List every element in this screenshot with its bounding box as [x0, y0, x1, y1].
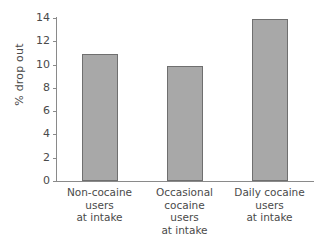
y-axis-title: % drop out	[13, 20, 26, 130]
y-axis-tick-label: 6	[43, 104, 50, 117]
y-axis-tick-label: 10	[36, 58, 50, 71]
y-axis-tick-label: 12	[36, 34, 50, 47]
y-axis-tick-label: 8	[43, 81, 50, 94]
y-axis-tick-mark	[53, 134, 57, 135]
y-axis-tick-mark	[53, 41, 57, 42]
x-axis-category-label: Daily cocaine users at intake	[227, 186, 312, 224]
bar	[82, 54, 118, 181]
bar-chart: % drop out 02468101214 Non-cocaine users…	[0, 0, 323, 242]
y-axis-tick-label: 4	[43, 127, 50, 140]
x-axis-line	[56, 181, 314, 182]
x-axis-category-label: Non-cocaine users at intake	[57, 186, 142, 224]
y-axis-tick-mark	[53, 181, 57, 182]
x-axis-category-label: Occasional cocaine users at intake	[142, 186, 227, 236]
y-axis-tick-mark	[53, 65, 57, 66]
y-axis-tick-label: 14	[36, 11, 50, 24]
bar	[167, 66, 203, 181]
y-axis-tick-label: 0	[43, 174, 50, 187]
y-axis-tick-mark	[53, 111, 57, 112]
bar	[252, 19, 288, 181]
y-axis-tick-mark	[53, 158, 57, 159]
y-axis-tick-mark	[53, 88, 57, 89]
y-axis-tick-mark	[53, 18, 57, 19]
y-axis-tick-label: 2	[43, 151, 50, 164]
